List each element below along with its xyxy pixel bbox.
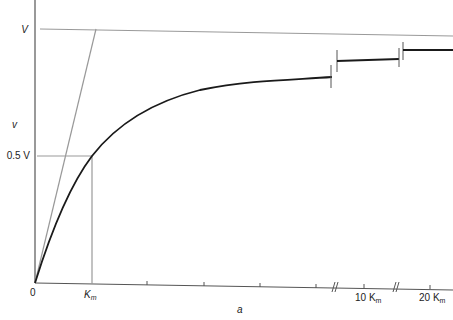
origin-label: 0	[30, 287, 36, 298]
rate-curve-segment-2	[337, 59, 399, 61]
v-max-line	[40, 29, 453, 36]
twenty-km-label: 20 Km	[419, 292, 446, 304]
x-axis	[35, 283, 453, 290]
half-v-label: 0.5 V	[7, 150, 31, 161]
x-axis-label: a	[237, 304, 243, 315]
km-label: Km	[84, 289, 97, 301]
michaelis-menten-chart: V v 0.5 V 0 Km a 10 Km 20 Km	[0, 0, 453, 320]
rate-curve	[35, 77, 332, 283]
ten-km-label: 10 Km	[355, 292, 382, 304]
y-axis-label: v	[12, 119, 18, 130]
v-max-label: V	[21, 24, 29, 35]
axis-break-marks	[332, 282, 399, 292]
